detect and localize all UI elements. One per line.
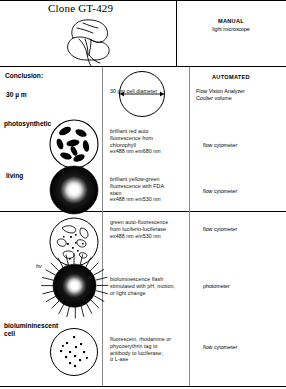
vrule-left (102, 67, 103, 386)
row-label-size: 30 µ m (6, 91, 27, 99)
rule-top (0, 0, 286, 1)
row-middle-living: brilliant yellow-green fluorescence with… (110, 176, 190, 203)
row-right-photosynthetic: flow cytometer (203, 142, 283, 149)
row-middle-luciferin: green auto-fluorescence from luciferin-l… (110, 219, 192, 239)
rule-bottom (0, 386, 286, 387)
row-right-living: flow cytometer (203, 188, 283, 195)
conclusion-label: Conclusion: (5, 72, 43, 80)
figure-flashing-cell-with-rays (40, 253, 108, 321)
rule-mid-section (0, 211, 286, 212)
row-right-flash: photometer (203, 283, 283, 290)
figure-cell-with-dots (48, 326, 100, 378)
figure-cell-with-chloroplasts (48, 118, 100, 170)
row-label-living: living (6, 172, 23, 180)
figure-organism-sketch (55, 16, 125, 66)
row-middle-flash: bioluminescence flash stimulated with pH… (110, 276, 192, 296)
manual-subheading: light microscope (176, 26, 286, 33)
row-right-size: Flow Vision Analyzer Coulter volume (196, 88, 284, 102)
vrule-right-header (176, 0, 177, 66)
manual-heading: MANUAL (176, 18, 286, 26)
row-middle-antibody: fluorescein, rhodamine or phycoerythrin … (110, 336, 194, 363)
figure-dark-cell-bright-center (48, 164, 100, 216)
figure-page: Clone GT-429 MANUAL light microscope (0, 0, 286, 389)
automated-heading: AUTOMATED (176, 74, 286, 82)
page-title: Clone GT-429 (48, 2, 113, 14)
row-right-antibody: flow cytometer (203, 344, 283, 351)
row-middle-photosynthetic: brilliant red auto fluorescence from chl… (110, 128, 190, 155)
row-label-photosynthetic: photosynthetic (4, 120, 51, 128)
row-middle-size: 30 µm cell diameter (110, 88, 186, 95)
row-right-luciferin: flow cytometer (203, 226, 283, 233)
rule-header-bottom (0, 66, 286, 67)
